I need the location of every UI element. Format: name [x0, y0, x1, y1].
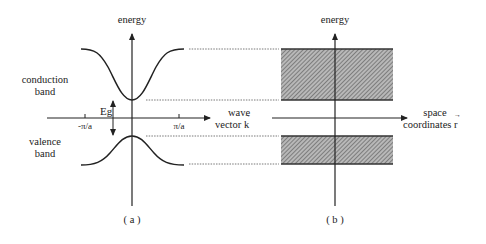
panel-b-energy-label: energy: [315, 14, 355, 25]
wave-vector-label-line1: wave: [214, 107, 264, 118]
conduction-band-label-line1: conduction: [14, 74, 76, 85]
conduction-band-region: [281, 49, 393, 100]
panel-a-energy-label: energy: [112, 14, 152, 25]
space-coordinates-label-line1: space: [412, 107, 458, 118]
r-vector-symbol: →r: [454, 119, 458, 130]
band-gap-label: Eg: [100, 106, 112, 117]
vector-arrow-icon: →: [244, 112, 249, 119]
wave-vector-text: vector: [215, 119, 244, 130]
band-diagram: energy conduction band valence band Eg -…: [0, 0, 486, 244]
panel-a: [47, 34, 210, 206]
panel-a-caption: ( a ): [110, 214, 154, 225]
tick-label-pi-over-a: π/a: [167, 121, 191, 132]
valence-band-region: [281, 136, 393, 164]
panel-b: [272, 34, 407, 206]
valence-band-label-line1: valence: [18, 136, 72, 147]
wave-vector-label-line2: vector →k: [215, 119, 249, 130]
conduction-band-label-line2: band: [14, 86, 76, 97]
vector-arrow-icon: →: [454, 112, 458, 119]
space-coordinates-text: coordinates: [403, 119, 454, 130]
k-vector-symbol: →k: [244, 119, 249, 130]
space-coordinates-label-line2: coordinates →r: [403, 119, 458, 130]
valence-band-label-line2: band: [18, 148, 72, 159]
tick-label-neg-pi-over-a: -π/a: [70, 121, 100, 132]
panel-b-caption: ( b ): [313, 214, 357, 225]
